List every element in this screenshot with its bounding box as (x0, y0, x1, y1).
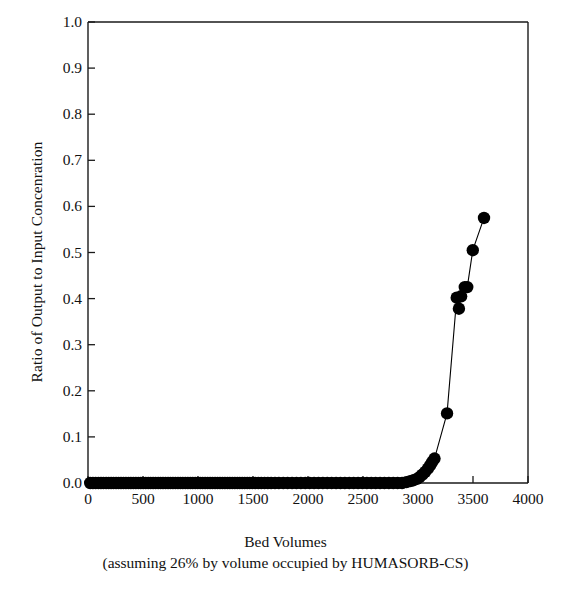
axis-frame (88, 22, 528, 483)
x-axis-title-block: Bed Volumes (assuming 26% by volume occu… (0, 531, 571, 574)
x-tick-label: 4000 (493, 490, 563, 508)
data-series (84, 212, 490, 489)
axis-ticks (88, 22, 528, 483)
x-axis-subtitle: (assuming 26% by volume occupied by HUMA… (0, 552, 571, 574)
chart-figure: Ratio of Output to Input Concenration 0.… (0, 0, 571, 593)
x-axis-tick-labels: 05001000150020002500300035004000 (0, 490, 571, 512)
x-axis-title: Bed Volumes (0, 531, 571, 552)
